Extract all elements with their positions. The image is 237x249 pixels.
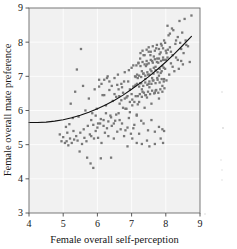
y-tick-label: 3 — [18, 207, 23, 218]
y-tick-label: 5 — [18, 139, 23, 150]
x-tick-label: 9 — [198, 218, 203, 229]
x-tick-label: 7 — [129, 218, 134, 229]
y-tick-label: 9 — [18, 2, 23, 13]
x-tick-label: 6 — [95, 218, 100, 229]
scatter-plot-svg: 456789 3456789 Female overall self-perce… — [0, 0, 237, 249]
x-tick-label: 4 — [27, 218, 32, 229]
y-tick-label: 4 — [18, 173, 23, 184]
x-tick-label: 5 — [61, 218, 66, 229]
y-tick-label: 8 — [18, 37, 23, 48]
x-axis-label: Female overall self-perception — [50, 234, 179, 245]
x-tick-label: 8 — [163, 218, 168, 229]
scatter-plot-figure: 456789 3456789 Female overall self-perce… — [0, 0, 237, 249]
y-tick-label: 7 — [18, 71, 23, 82]
y-tick-label: 6 — [18, 105, 23, 116]
y-axis-label: Female overall mate preference — [2, 43, 13, 176]
